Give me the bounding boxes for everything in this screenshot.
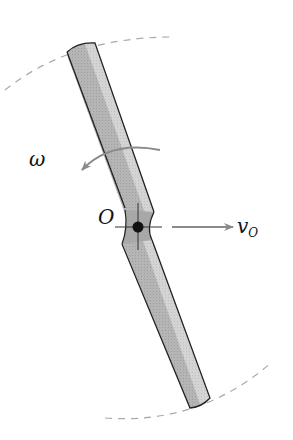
velocity-symbol: v (237, 214, 248, 238)
velocity-subscript: O (248, 226, 258, 240)
lower-rod-segment (122, 236, 210, 408)
omega-label: ω (29, 147, 45, 171)
velocity-label: vO (237, 214, 258, 240)
pivot-point-O (133, 222, 144, 233)
upper-rod-segment (67, 43, 154, 222)
pivot-label: O (98, 205, 114, 229)
rotating-rod-diagram: ω O vO (0, 0, 293, 440)
